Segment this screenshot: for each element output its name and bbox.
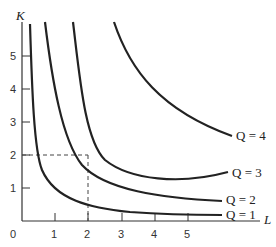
y-axis-label: K [15, 8, 26, 23]
label-q2: Q = 2 [226, 192, 256, 207]
x-ticks: 1 2 3 4 5 [51, 213, 190, 240]
svg-text:2: 2 [84, 228, 90, 240]
label-q1: Q = 1 [226, 207, 256, 222]
svg-text:1: 1 [51, 228, 57, 240]
svg-text:5: 5 [10, 50, 16, 62]
svg-text:4: 4 [151, 228, 157, 240]
svg-text:4: 4 [10, 83, 16, 95]
isoquant-chart: K L 0 1 2 3 4 5 1 2 3 4 5 Q = 1 [0, 0, 276, 247]
y-ticks: 1 2 3 4 5 [10, 50, 30, 194]
svg-text:1: 1 [10, 182, 16, 194]
origin-label: 0 [10, 228, 16, 240]
curve-q3 [73, 22, 228, 179]
svg-text:3: 3 [118, 228, 124, 240]
isoquant-curves [30, 22, 232, 215]
label-q4: Q = 4 [236, 128, 266, 143]
svg-text:3: 3 [10, 116, 16, 128]
svg-text:2: 2 [10, 149, 16, 161]
curve-q4 [114, 22, 232, 136]
x-axis-label: L [263, 212, 271, 227]
svg-text:5: 5 [184, 228, 190, 240]
label-q3: Q = 3 [232, 165, 262, 180]
